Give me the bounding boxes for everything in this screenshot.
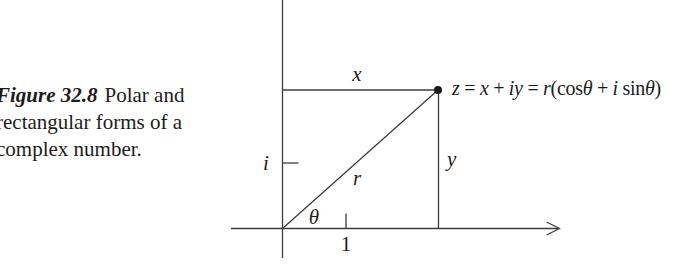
complex-plane-diagram: x y r θ i 1 (0, 0, 698, 265)
eq-part: (cos (551, 77, 583, 99)
eq-part: sin (618, 77, 645, 99)
radius-vector-segment (283, 90, 439, 229)
eq-part: + (488, 77, 508, 99)
complex-point-marker (434, 86, 442, 94)
eq-part: iy (509, 77, 523, 99)
eq-part: ) (655, 77, 661, 99)
eq-part: r (543, 77, 550, 99)
x-segment-label: x (351, 62, 362, 86)
figure-panel: Figure 32.8Polar and rectangular forms o… (0, 0, 698, 265)
eq-part: + (592, 77, 612, 99)
eq-part: = (523, 77, 543, 99)
angle-label: θ (309, 205, 319, 229)
y-segment-label: y (445, 147, 457, 171)
complex-number-equation: z = x + iy = r(cosθ + i sinθ) (452, 77, 661, 100)
eq-part: θ (645, 77, 655, 99)
real-unit-label: 1 (341, 232, 352, 256)
eq-part: = (459, 77, 479, 99)
imaginary-unit-label: i (263, 151, 269, 175)
eq-part: θ (583, 77, 593, 99)
radius-label: r (353, 166, 362, 190)
